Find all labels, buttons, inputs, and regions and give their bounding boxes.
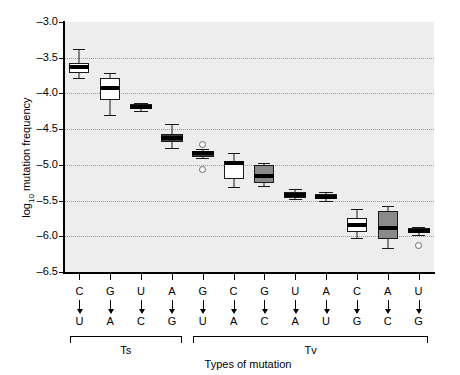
group-bracket	[70, 336, 182, 343]
y-axis-tick-label: –4.0	[22, 87, 58, 98]
group-bracket	[193, 336, 429, 343]
median-line	[254, 174, 274, 178]
whisker-cap-lower	[104, 115, 116, 116]
x-axis-tick-mark	[172, 274, 173, 280]
whisker-cap-lower	[228, 187, 240, 188]
whisker-upper	[79, 49, 80, 63]
median-line	[161, 136, 183, 140]
whisker-cap-lower	[289, 199, 302, 200]
y-axis-tick-mark	[59, 165, 64, 166]
whisker-lower	[233, 179, 234, 187]
whisker-cap-lower	[258, 186, 270, 187]
gridline	[64, 165, 434, 166]
whisker-cap-lower	[351, 238, 363, 239]
x-axis-tick-mark	[264, 274, 265, 280]
whisker-cap-upper	[289, 189, 302, 190]
y-axis-spine	[63, 21, 65, 273]
x-category-source-base: G	[188, 286, 218, 297]
y-axis-tick-labels: –3.0–3.5–4.0–4.5–5.0–5.5–6.0–6.5	[22, 0, 58, 375]
x-category-source-base: U	[280, 286, 310, 297]
arrow-down-icon-head	[200, 309, 206, 314]
whisker-cap-upper	[165, 124, 178, 125]
x-axis-tick-mark	[326, 274, 327, 280]
x-category-target-base: U	[188, 316, 218, 327]
y-axis-tick-label: –3.5	[22, 52, 58, 63]
y-axis-tick-label: –3.0	[22, 16, 58, 27]
y-axis-tick-mark	[59, 58, 64, 59]
median-line	[315, 195, 337, 199]
y-axis-tick-mark	[59, 93, 64, 94]
y-axis-tick-mark	[59, 236, 64, 237]
x-category-target-base: C	[126, 316, 156, 327]
whisker-cap-upper	[351, 209, 363, 210]
whisker-cap-upper	[104, 73, 116, 74]
arrow-down-icon-head	[77, 309, 83, 314]
x-axis-tick-mark	[110, 274, 111, 280]
median-line	[347, 223, 367, 227]
x-category-target-base: U	[64, 316, 94, 327]
x-axis-tick-mark	[203, 274, 204, 280]
arrow-down-icon-head	[231, 309, 237, 314]
outlier-point	[199, 166, 206, 173]
y-axis-tick-label: –5.5	[22, 195, 58, 206]
y-axis-tick-mark	[59, 129, 64, 130]
x-category-target-base: C	[249, 316, 279, 327]
median-line	[100, 86, 120, 90]
arrow-down-icon-head	[169, 309, 175, 314]
whisker-cap-lower	[319, 201, 332, 202]
arrow-down-icon-head	[262, 309, 268, 314]
whisker-lower	[110, 100, 111, 115]
whisker-cap-lower	[134, 111, 147, 112]
x-category-target-base: A	[280, 316, 310, 327]
arrow-down-icon-head	[139, 309, 145, 314]
median-line	[284, 193, 306, 197]
x-axis-tick-mark	[234, 274, 235, 280]
x-category-target-base: A	[95, 316, 125, 327]
whisker-cap-lower	[165, 148, 178, 149]
x-axis-title: Types of mutation	[0, 358, 460, 370]
whisker-cap-upper	[228, 153, 240, 154]
whisker-upper	[233, 153, 234, 161]
arrow-down-icon-head	[416, 309, 422, 314]
whisker-cap-upper	[382, 206, 394, 207]
x-axis-title-text: Types of mutation	[205, 358, 292, 370]
x-category-target-base: U	[311, 316, 341, 327]
x-category-source-base: U	[126, 286, 156, 297]
arrow-down-icon-head	[385, 309, 391, 314]
x-category-source-base: G	[249, 286, 279, 297]
whisker-lower	[387, 239, 388, 248]
median-line	[224, 161, 244, 165]
x-category-source-base: U	[404, 286, 434, 297]
x-category-target-base: G	[404, 316, 434, 327]
gridline	[64, 129, 434, 130]
y-axis-tick-label: –4.5	[22, 123, 58, 134]
group-bracket-label: Tv	[193, 344, 429, 356]
x-category-target-base: G	[157, 316, 187, 327]
x-category-source-base: C	[342, 286, 372, 297]
median-line	[69, 65, 89, 69]
x-axis-tick-mark	[79, 274, 80, 280]
y-axis-tick-mark	[59, 201, 64, 202]
arrow-down-icon-head	[324, 309, 330, 314]
x-category-source-base: A	[311, 286, 341, 297]
gridline	[64, 58, 434, 59]
arrow-down-icon-head	[354, 309, 360, 314]
x-category-target-base: C	[373, 316, 403, 327]
x-axis-tick-mark	[295, 274, 296, 280]
y-axis-tick-label: –6.5	[22, 266, 58, 277]
median-line	[378, 226, 398, 230]
x-category-source-base: A	[157, 286, 187, 297]
arrow-down-icon-head	[108, 309, 114, 314]
x-category-source-base: G	[95, 286, 125, 297]
whisker-cap-upper	[319, 192, 332, 193]
x-axis-spine	[63, 272, 435, 274]
x-axis-tick-mark	[357, 274, 358, 280]
x-category-source-base: A	[373, 286, 403, 297]
whisker-upper	[356, 209, 357, 218]
y-axis-tick-label: –5.0	[22, 159, 58, 170]
median-line	[408, 229, 430, 233]
arrow-down-icon-head	[293, 309, 299, 314]
y-axis-tick-mark	[59, 22, 64, 23]
gridline	[64, 201, 434, 202]
x-axis-tick-mark	[419, 274, 420, 280]
